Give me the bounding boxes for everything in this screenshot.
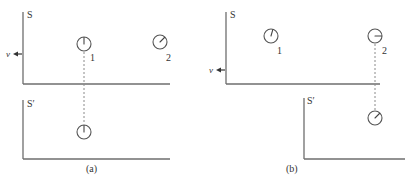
clock-label-b-2: 2: [382, 45, 387, 56]
clock-icon-a-s-prime: [77, 125, 91, 139]
clock-icon-b-s-prime: [368, 111, 382, 125]
panel-b: S v 1 2 S′ (b): [209, 9, 405, 175]
frame-s-label-b: S: [230, 9, 236, 20]
frame-s-axes-a: [23, 12, 170, 84]
frame-s-prime-label-b: S′: [307, 95, 315, 106]
frame-s-prime-axes-b: [304, 98, 405, 159]
frame-s-prime-axes-a: [23, 100, 170, 159]
panel-a: S v 1 2 S′ (a): [6, 9, 171, 175]
velocity-arrow-icon-b: [216, 68, 225, 73]
clock-icon-a-s-1: [77, 37, 91, 51]
frame-s-label-a: S: [27, 9, 33, 20]
velocity-arrow-icon-a: [13, 52, 22, 57]
clock-icon-b-s-1: [264, 29, 278, 43]
panel-caption-a: (a): [86, 163, 97, 175]
clock-label-b-1: 1: [277, 45, 282, 56]
panel-caption-b: (b): [286, 163, 298, 175]
relativity-clocks-diagram: S v 1 2 S′ (a): [0, 0, 405, 189]
clock-icon-b-s-2: [368, 29, 382, 43]
frame-s-axes-b: [226, 12, 380, 84]
frame-s-prime-label-a: S′: [27, 98, 35, 109]
clock-label-a-2: 2: [166, 52, 171, 63]
velocity-label-b: v: [209, 65, 213, 75]
velocity-label-a: v: [6, 49, 10, 59]
clock-icon-a-s-2: [153, 35, 167, 49]
clock-label-a-1: 1: [90, 52, 95, 63]
